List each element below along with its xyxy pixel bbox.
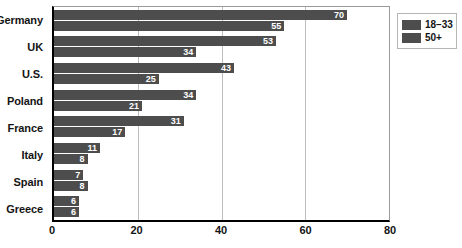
bar-slot: 8 xyxy=(54,181,389,191)
bar-group: 66 xyxy=(54,193,389,220)
bar-value-label: 17 xyxy=(112,127,125,137)
bar-value-label: 43 xyxy=(221,63,234,73)
bar-slot: 11 xyxy=(54,143,389,153)
bar-group: 7055 xyxy=(54,7,389,34)
x-tick-label: 20 xyxy=(130,224,142,236)
bar-slot: 21 xyxy=(54,101,389,111)
bar-slot: 31 xyxy=(54,116,389,126)
legend-item-50-plus: 50+ xyxy=(402,31,453,44)
bar xyxy=(54,47,196,57)
legend-label: 18–33 xyxy=(425,19,453,30)
bar-slot: 25 xyxy=(54,74,389,84)
bar xyxy=(54,36,276,46)
bar-value-label: 21 xyxy=(129,101,142,111)
bar xyxy=(54,21,284,31)
bar-rows: 705553344325342131171187866 xyxy=(54,7,389,220)
bar-slot: 43 xyxy=(54,63,389,73)
category-label: Greece xyxy=(0,195,48,222)
bar-group: 118 xyxy=(54,140,389,167)
x-tick-label: 60 xyxy=(299,224,311,236)
category-label: U.S. xyxy=(0,60,48,87)
bar-value-label: 11 xyxy=(88,143,101,153)
bar-slot: 8 xyxy=(54,154,389,164)
bar-group: 4325 xyxy=(54,60,389,87)
category-label: Spain xyxy=(0,168,48,195)
bar-value-label: 70 xyxy=(334,10,347,20)
x-tick-label: 80 xyxy=(384,224,396,236)
category-label: Poland xyxy=(0,87,48,114)
bar-group: 5334 xyxy=(54,34,389,61)
bar xyxy=(54,74,159,84)
bar-value-label: 6 xyxy=(71,196,79,206)
bar-value-label: 55 xyxy=(271,21,284,31)
category-label: Italy xyxy=(0,141,48,168)
bar-value-label: 6 xyxy=(71,207,79,217)
category-label: France xyxy=(0,114,48,141)
bar xyxy=(54,63,234,73)
bar-value-label: 31 xyxy=(171,116,184,126)
bar-slot: 34 xyxy=(54,90,389,100)
bar-chart: Germany UK U.S. Poland France Italy Spai… xyxy=(0,0,462,248)
bar-slot: 70 xyxy=(54,10,389,20)
bar xyxy=(54,10,347,20)
bar-group: 3117 xyxy=(54,114,389,141)
x-tick-label: 40 xyxy=(215,224,227,236)
bar-slot: 55 xyxy=(54,21,389,31)
bar-value-label: 7 xyxy=(75,170,83,180)
x-axis: 020406080 xyxy=(52,224,390,244)
bar xyxy=(54,90,196,100)
bar xyxy=(54,116,184,126)
bar-slot: 7 xyxy=(54,170,389,180)
x-tick-label: 0 xyxy=(49,224,55,236)
bar-group: 3421 xyxy=(54,87,389,114)
legend-swatch-icon xyxy=(402,33,421,43)
category-axis-labels: Germany UK U.S. Poland France Italy Spai… xyxy=(0,6,48,222)
category-label: Germany xyxy=(0,6,48,33)
bar-group: 78 xyxy=(54,167,389,194)
bar-value-label: 34 xyxy=(183,90,196,100)
bar-value-label: 34 xyxy=(183,47,196,57)
bar-slot: 34 xyxy=(54,47,389,57)
legend: 18–33 50+ xyxy=(397,13,457,49)
plot-area: 705553344325342131171187866 xyxy=(52,6,390,222)
bar-slot: 17 xyxy=(54,127,389,137)
legend-item-18-33: 18–33 xyxy=(402,18,453,31)
bar-value-label: 8 xyxy=(79,154,87,164)
bar-value-label: 8 xyxy=(79,181,87,191)
legend-swatch-icon xyxy=(402,20,421,30)
legend-label: 50+ xyxy=(425,32,442,43)
bar-slot: 6 xyxy=(54,196,389,206)
category-label: UK xyxy=(0,33,48,60)
bar-value-label: 53 xyxy=(263,36,276,46)
bar-slot: 53 xyxy=(54,36,389,46)
bar-slot: 6 xyxy=(54,207,389,217)
bar-value-label: 25 xyxy=(146,74,159,84)
